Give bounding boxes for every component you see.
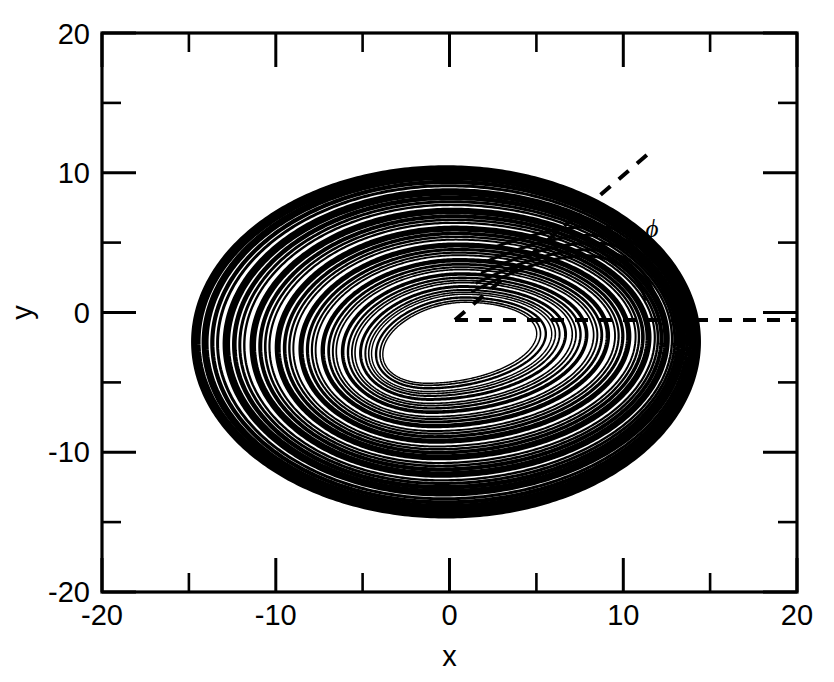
y-tick-label-pos20: 20: [58, 18, 90, 50]
y-tick-label-zero: 0: [74, 297, 90, 329]
y-tick-label-pos10: 10: [58, 157, 90, 189]
phase-portrait-plot: ϕ -20 -10 0 10 20 -20 -10 0 10 20 x y: [0, 0, 834, 682]
x-axis-title: x: [442, 640, 457, 672]
chart-figure: ϕ -20 -10 0 10 20 -20 -10 0 10 20 x y: [0, 0, 834, 682]
x-tick-label-neg10: -10: [255, 599, 297, 631]
x-tick-label-pos10: 10: [607, 599, 639, 631]
y-tick-label-neg10: -10: [48, 436, 90, 468]
x-tick-label-zero: 0: [441, 599, 457, 631]
angle-label-phi: ϕ: [646, 215, 659, 242]
x-tick-label-pos20: 20: [781, 599, 813, 631]
y-axis-title: y: [6, 305, 38, 320]
y-tick-label-neg20: -20: [48, 576, 90, 608]
